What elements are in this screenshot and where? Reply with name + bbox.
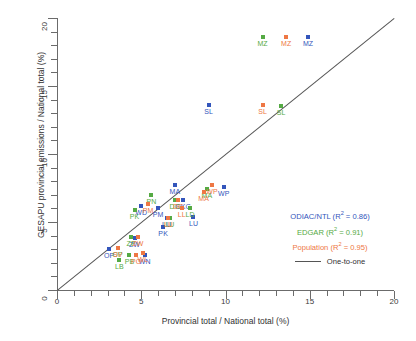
y-tick-label: 15 <box>40 86 49 104</box>
data-point <box>146 202 150 206</box>
y-tick-label: 20 <box>40 18 49 36</box>
data-point <box>180 206 184 210</box>
legend-edgar-suffix: = 0.91) <box>337 227 363 236</box>
data-point <box>188 206 192 210</box>
data-point-label: MA <box>170 188 181 195</box>
x-tick-label: 5 <box>139 297 143 306</box>
data-point-label: LD <box>186 211 195 218</box>
data-point-label: MZ <box>281 40 291 47</box>
data-point-label: LU <box>164 221 173 228</box>
data-point-label: WP <box>218 190 229 197</box>
legend-odiac-suffix: = 0.86) <box>344 212 370 221</box>
legend-item-population: Population (R2 = 0.95) <box>262 241 398 252</box>
legend-odiac-prefix: ODIAC/NTL (R <box>290 212 340 221</box>
x-tick <box>192 291 193 296</box>
x-tick-label: 15 <box>305 297 314 306</box>
y-tick <box>48 86 57 87</box>
x-tick <box>360 291 361 296</box>
data-point-label: MZ <box>257 40 267 47</box>
chart-legend: ODIAC/NTL (R2 = 0.86) EDGAR (R2 = 0.91) … <box>262 210 398 266</box>
data-point-label: PK <box>158 230 168 237</box>
data-point-label: SV <box>113 251 123 258</box>
data-point <box>136 235 140 239</box>
data-point-label: PM <box>143 207 154 214</box>
y-tick-label: 5 <box>40 222 49 240</box>
x-tick-label: 20 <box>390 297 399 306</box>
x-tick <box>209 291 210 296</box>
data-point-label: SL <box>277 109 286 116</box>
data-point <box>222 185 226 189</box>
y-tick-label: 10 <box>40 154 49 172</box>
legend-line-label: One-to-one <box>327 257 365 266</box>
data-point-label: PM <box>153 211 164 218</box>
data-point <box>129 235 133 239</box>
x-tick <box>343 291 344 296</box>
x-tick <box>158 291 159 296</box>
legend-population-prefix: Population (R <box>292 243 338 252</box>
y-tick <box>48 18 57 19</box>
data-point <box>107 247 111 251</box>
scatter-chart-figure: GESAPU provincial emissions / National t… <box>0 0 416 341</box>
data-point-label: WL <box>138 256 149 263</box>
x-tick <box>276 291 277 296</box>
data-point-label: LB <box>115 263 124 270</box>
x-tick <box>259 291 260 296</box>
y-tick-label: 0 <box>40 290 49 308</box>
x-tick <box>175 291 176 296</box>
data-point-label: LL <box>178 211 186 218</box>
x-tick <box>91 291 92 296</box>
data-point <box>116 246 120 250</box>
data-point <box>166 216 170 220</box>
x-tick <box>293 291 294 296</box>
x-tick <box>74 291 75 296</box>
y-tick <box>48 222 57 223</box>
legend-edgar-prefix: EDGAR (R <box>297 227 334 236</box>
data-point <box>261 35 265 39</box>
x-tick-label: 0 <box>55 297 59 306</box>
data-point <box>127 253 131 257</box>
x-tick <box>108 291 109 296</box>
data-point <box>117 258 121 262</box>
data-point-label: PK <box>130 213 140 220</box>
legend-item-one-to-one: One-to-one <box>262 257 398 266</box>
data-point <box>284 35 288 39</box>
data-point <box>133 208 137 212</box>
x-tick-label: 10 <box>221 297 230 306</box>
data-point <box>141 251 145 255</box>
data-point <box>207 103 211 107</box>
y-tick <box>48 154 57 155</box>
data-point <box>210 183 214 187</box>
legend-item-edgar: EDGAR (R2 = 0.91) <box>262 226 398 237</box>
legend-population-suffix: = 0.95) <box>342 243 368 252</box>
data-point-label: SL <box>258 108 267 115</box>
data-point-label: MZ <box>303 40 313 47</box>
data-point <box>306 35 310 39</box>
y-tick <box>48 290 57 291</box>
data-point-label: SL <box>204 108 213 115</box>
data-point <box>279 104 283 108</box>
legend-line-swatch <box>295 261 321 262</box>
x-tick <box>377 291 378 296</box>
x-tick <box>124 291 125 296</box>
x-tick <box>242 291 243 296</box>
data-point <box>181 198 185 202</box>
data-point <box>261 103 265 107</box>
x-tick <box>327 291 328 296</box>
data-point-label: MA <box>198 195 209 202</box>
data-point <box>176 198 180 202</box>
data-point <box>173 183 177 187</box>
x-axis-title: Provincial total / National total (%) <box>57 316 394 326</box>
data-point <box>202 190 206 194</box>
data-point <box>149 193 153 197</box>
data-point <box>156 206 160 210</box>
data-point-label: ZW <box>132 240 143 247</box>
data-point-label: LU <box>189 220 198 227</box>
legend-item-odiac: ODIAC/NTL (R2 = 0.86) <box>262 210 398 221</box>
